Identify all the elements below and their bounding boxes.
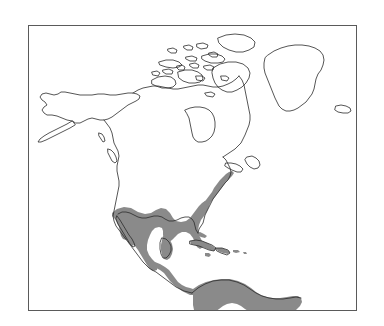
coastline-aleutian-peninsula <box>38 121 75 142</box>
map-frame <box>28 25 357 311</box>
coastline-arctic-islet-d <box>186 56 197 61</box>
coastline-arctic-islet-f <box>163 69 173 74</box>
range-area-lesser-antilles <box>243 252 247 254</box>
coastline-vancouver-island <box>108 149 117 163</box>
coastline-melville-island <box>159 60 182 68</box>
coastline-arctic-islet-j <box>221 76 229 81</box>
map-canvas <box>28 25 357 311</box>
coastline-banks-island <box>152 76 176 88</box>
coastline-layer <box>38 34 351 299</box>
coastline-alaska <box>40 92 140 123</box>
range-area-central-america <box>153 262 195 295</box>
range-area-puerto-rico <box>233 250 240 253</box>
range-area-northern-south-america <box>193 279 302 311</box>
coastline-hudson-bay <box>185 107 215 142</box>
coastline-arctic-islet-b <box>184 45 193 50</box>
coastline-arctic-islet-g <box>190 63 199 68</box>
range-area-hispaniola <box>216 248 230 254</box>
range-area-jamaica <box>205 253 211 257</box>
coastline-newfoundland <box>245 156 260 169</box>
coastline-haida-gwaii <box>99 133 105 142</box>
coastline-arctic-islet-a <box>168 48 177 53</box>
distribution-range-layer <box>112 171 302 311</box>
coastline-greenland <box>264 45 324 111</box>
coastline-arctic-islet-c <box>197 43 208 49</box>
coastline-arctic-islet-l <box>205 92 215 97</box>
coastline-arctic-islet-m <box>152 71 160 76</box>
coastline-iceland <box>335 105 351 113</box>
coastline-ellesmere-island <box>218 34 255 52</box>
range-map-figure <box>0 0 384 326</box>
coastline-victoria-island <box>178 70 203 83</box>
coastline-maritimes <box>225 163 243 172</box>
coastline-devon-island <box>202 54 225 63</box>
coastline-arctic-islet-k <box>196 76 205 81</box>
coastline-labrador <box>223 76 250 157</box>
